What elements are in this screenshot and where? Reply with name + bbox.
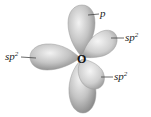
oxygen-atom-symbol: O xyxy=(77,52,86,66)
orbital-diagram-svg: O p sp2 sp2 sp2 xyxy=(0,0,151,117)
sp2-left-label: sp2 xyxy=(5,50,19,62)
sp2-upper-right-label: sp2 xyxy=(125,31,139,43)
sp2-lower-right-label: sp2 xyxy=(114,70,128,82)
orbital-diagram: O p sp2 sp2 sp2 xyxy=(0,0,151,117)
p-orbital-label: p xyxy=(99,7,106,19)
sp2-orbital-left-lobe xyxy=(30,44,80,70)
